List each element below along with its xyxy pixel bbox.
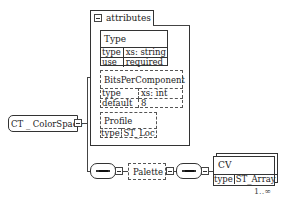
element-palette-label: Palette	[133, 168, 163, 177]
sequence-compositor-1[interactable]	[90, 163, 116, 179]
prop-value: xs: int	[139, 89, 184, 99]
root-element-ct-colorspace[interactable]: CT _ ColorSpace	[8, 115, 78, 132]
attribute-bitspercomponent-props: type xs: int default 8	[100, 88, 183, 108]
prop-key: type	[100, 48, 123, 58]
prop-value: 8	[139, 99, 184, 109]
prop-key: type	[100, 89, 139, 99]
collapse-toggle-sequence-1[interactable]	[115, 167, 123, 175]
attribute-profile[interactable]: Profile type ST_Loc	[100, 112, 157, 138]
attributes-top-edge	[153, 25, 190, 26]
attribute-bitspercomponent[interactable]: BitsPerComponent type xs: int default 8	[100, 70, 183, 108]
attribute-type-props: type xs: string use required	[100, 47, 168, 67]
prop-value: required	[123, 58, 168, 68]
prop-value: ST_Loc	[122, 129, 157, 139]
sequence-icon	[96, 170, 110, 172]
collapse-toggle-attributes[interactable]	[94, 14, 102, 22]
attribute-type-name: Type	[104, 35, 126, 44]
attributes-group-label: attributes	[106, 14, 151, 23]
attribute-profile-name: Profile	[104, 117, 132, 126]
collapse-toggle-sequence-2[interactable]	[201, 167, 209, 175]
connector-vertical-branch	[87, 77, 88, 172]
prop-value: xs: string	[123, 48, 168, 58]
prop-key: type	[100, 129, 122, 139]
element-palette[interactable]: Palette	[128, 163, 166, 180]
sequence-compositor-2[interactable]	[176, 163, 202, 179]
attribute-bitspercomponent-name: BitsPerComponent	[104, 76, 185, 85]
collapse-toggle-root[interactable]	[74, 119, 82, 127]
element-cv-cardinality: 1..∞	[254, 188, 271, 196]
element-cv-label: CV	[218, 161, 231, 170]
element-cv[interactable]: CV type ST_Array	[213, 156, 275, 186]
attribute-profile-props: type ST_Loc	[100, 128, 157, 138]
collapse-toggle-palette[interactable]	[166, 167, 174, 175]
root-element-label: CT _ ColorSpace	[11, 120, 82, 129]
element-cv-props: type ST_Array	[213, 174, 277, 184]
prop-key: type	[213, 175, 234, 185]
sequence-icon	[182, 170, 196, 172]
prop-value: ST_Array	[234, 175, 276, 185]
prop-key: use	[100, 58, 123, 68]
prop-key: default	[100, 99, 139, 109]
attribute-type[interactable]: Type type xs: string use required	[100, 30, 168, 66]
